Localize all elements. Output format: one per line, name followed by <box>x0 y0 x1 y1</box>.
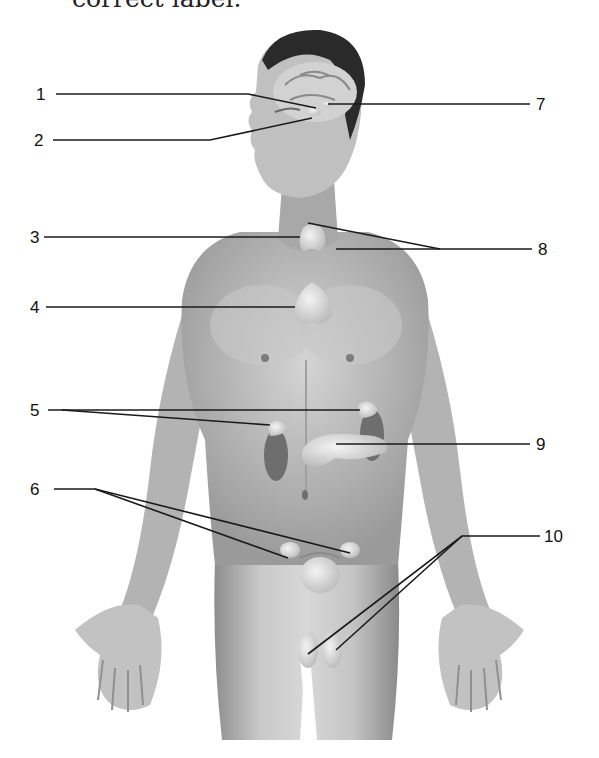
testis-left <box>298 632 318 668</box>
label-2: 2 <box>34 132 43 149</box>
label-3: 3 <box>30 229 39 246</box>
label-10: 10 <box>544 528 563 545</box>
label-4: 4 <box>30 299 39 316</box>
kidney-left <box>264 429 288 481</box>
torso <box>181 232 428 565</box>
testis-right <box>322 632 342 668</box>
label-8: 8 <box>538 241 547 258</box>
label-5: 5 <box>30 402 39 419</box>
ovary-right <box>340 542 360 558</box>
head <box>249 30 366 198</box>
label-1: 1 <box>36 86 45 103</box>
label-7: 7 <box>536 96 545 113</box>
label-6: 6 <box>30 481 39 498</box>
uterus <box>300 557 340 593</box>
anatomy-illustration <box>0 0 599 758</box>
thyroid <box>300 224 326 252</box>
label-9: 9 <box>536 436 545 453</box>
